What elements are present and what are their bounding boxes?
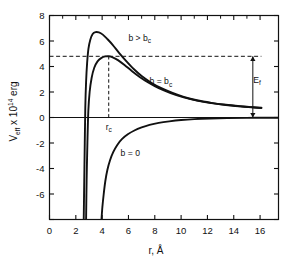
ef-label: Ef [253,75,261,86]
curve-2 [86,56,261,219]
y-tick-label: 4 [39,61,44,72]
x-axis-tick-labels: 0246810121416 [47,225,266,236]
x-tick-label: 10 [176,225,187,236]
y-tick-label: 8 [39,10,44,21]
curve-3 [101,118,278,220]
x-tick-label: 12 [202,225,213,236]
figure-effective-potential: 0246810121416 -6-4-202468 rcEf b > bcb =… [0,0,295,257]
ef-arrow-head-top [250,56,255,61]
data-curves [84,32,279,220]
y-axis-title: Veff x 1014 erg [7,81,20,141]
x-tick-label: 16 [255,225,266,236]
curve-label-3: b = 0 [121,148,141,158]
x-tick-label: 6 [126,225,131,236]
plot-canvas: 0246810121416 -6-4-202468 rcEf b > bcb =… [0,0,295,257]
y-tick-label: -2 [36,138,44,149]
rc-label: rc [106,122,113,133]
curve-label-1: b > bc [128,33,151,44]
x-tick-label: 2 [73,225,78,236]
x-tick-label: 8 [152,225,157,236]
y-tick-label: -4 [36,163,44,174]
x-tick-label: 0 [47,225,52,236]
x-tick-label: 14 [228,225,239,236]
annotation-labels: rcEf [106,75,261,133]
curve-labels: b > bcb = bcb = 0 [121,33,173,158]
y-tick-label: 6 [39,36,44,47]
y-axis-tick-labels: -6-4-202468 [36,10,44,200]
curve-label-2: b = bc [150,76,173,87]
y-tick-label: 2 [39,87,44,98]
y-axis-title-text: Veff x 1014 erg [7,81,20,141]
x-tick-label: 4 [99,225,104,236]
y-tick-label: -6 [36,189,44,200]
x-axis-title: r, Å [148,244,163,256]
y-tick-label: 0 [39,112,44,123]
ef-arrow-head-bottom [250,113,255,118]
